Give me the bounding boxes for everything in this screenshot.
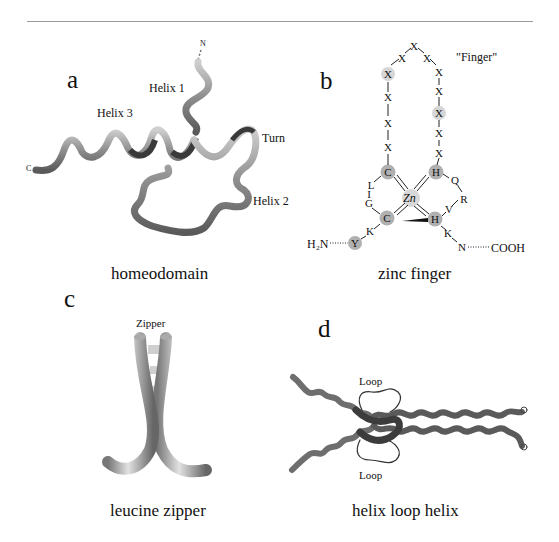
helix-loop-helix-ribbon-icon [0,0,559,542]
caption-helix-loop-helix: helix loop helix [352,502,459,519]
loop-bottom-label: Loop [359,469,382,481]
loop-top-label: Loop [359,375,382,387]
panel-letter-d: d [318,316,331,341]
